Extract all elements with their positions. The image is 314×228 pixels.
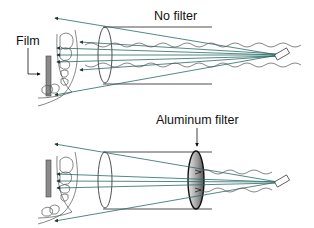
aluminum-filter-icon	[188, 151, 204, 209]
panel-aluminum-filter: Aluminum filter	[38, 113, 290, 224]
xray-filtration-diagram: No filter Film	[0, 0, 314, 228]
xray-tube-icon-bottom	[274, 175, 289, 187]
panel-title-aluminum-filter: Aluminum filter	[156, 113, 239, 127]
xray-tube-icon	[274, 48, 289, 60]
xray-beams	[55, 18, 278, 95]
xray-beams-bottom	[55, 144, 278, 221]
film-pointer-icon	[28, 48, 40, 74]
panel-title-no-filter: No filter	[154, 9, 197, 23]
panel-no-filter: No filter Film	[16, 9, 301, 106]
film-label: Film	[16, 34, 40, 48]
film-icon-bottom	[46, 160, 51, 197]
